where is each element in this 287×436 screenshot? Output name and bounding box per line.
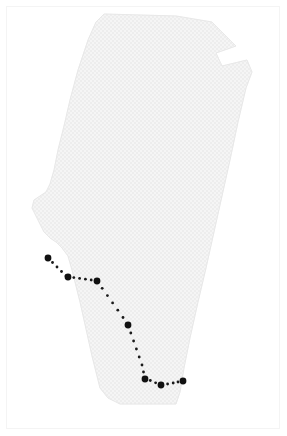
route-trail-dot <box>72 276 75 279</box>
route-trail-dot <box>154 381 157 384</box>
route-waypoint-marker[interactable] <box>94 278 101 285</box>
route-trail-dot <box>177 381 180 384</box>
route-trail-dot <box>138 356 141 359</box>
route-trail-dot <box>116 309 119 312</box>
route-trail-dot <box>172 382 175 385</box>
route-trail-dot <box>135 348 138 351</box>
route-waypoint-marker[interactable] <box>45 255 52 262</box>
map-canvas <box>0 0 287 436</box>
route-trail-dot <box>60 270 63 273</box>
map-figure <box>0 0 287 436</box>
route-waypoint-marker[interactable] <box>142 376 149 383</box>
route-trail-dot <box>141 364 144 367</box>
route-trail-dot <box>166 383 169 386</box>
route-trail-dot <box>106 294 109 297</box>
route-waypoint-marker[interactable] <box>125 322 132 329</box>
route-trail-dot <box>122 316 125 319</box>
route-trail-dot <box>51 261 54 264</box>
route-trail-dot <box>84 278 87 281</box>
route-trail-dot <box>149 379 152 382</box>
route-trail-dot <box>90 279 93 282</box>
route-trail-dot <box>132 340 135 343</box>
route-trail-dot <box>129 332 132 335</box>
route-trail-dot <box>78 277 81 280</box>
route-trail-dot <box>56 266 59 269</box>
route-waypoint-marker[interactable] <box>65 274 72 281</box>
route-trail-dot <box>142 371 145 374</box>
route-waypoint-marker[interactable] <box>158 382 165 389</box>
route-trail-dot <box>111 302 114 305</box>
route-waypoint-marker[interactable] <box>180 378 187 385</box>
route-trail-dot <box>101 287 104 290</box>
